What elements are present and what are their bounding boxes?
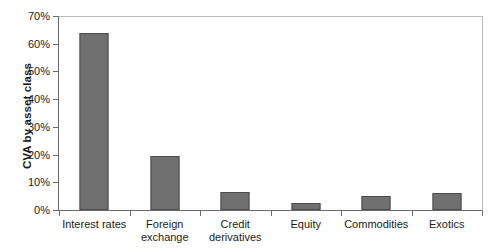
bars-layer xyxy=(59,16,482,210)
y-tick-mark xyxy=(53,127,58,128)
x-tick-mark xyxy=(482,211,483,216)
bar-slot xyxy=(130,16,201,210)
bar-interest-rates[interactable] xyxy=(80,33,109,210)
y-tick-label: 10% xyxy=(8,177,50,188)
bar-credit-derivatives[interactable] xyxy=(221,192,250,210)
y-tick-label: 70% xyxy=(8,11,50,22)
y-tick-mark xyxy=(53,155,58,156)
x-tick-mark xyxy=(59,211,60,216)
y-tick-mark xyxy=(53,71,58,72)
y-tick-label: 30% xyxy=(8,121,50,132)
y-tick-label: 50% xyxy=(8,66,50,77)
x-tick-mark xyxy=(341,211,342,216)
bar-chart: CVA by asset class 70%60%50%40%30%20%10%… xyxy=(0,0,493,250)
y-tick-label: 0% xyxy=(8,205,50,216)
y-tick-mark xyxy=(53,99,58,100)
y-tick-label: 40% xyxy=(8,94,50,105)
y-tick-mark xyxy=(53,44,58,45)
y-tick-mark xyxy=(53,182,58,183)
bar-slot xyxy=(271,16,342,210)
x-axis-label-line: Exotics xyxy=(402,218,492,231)
x-axis-label-line: derivatives xyxy=(190,231,280,244)
bar-commodities[interactable] xyxy=(362,196,391,210)
y-tick-label: 20% xyxy=(8,149,50,160)
x-axis-label-exotics: Exotics xyxy=(402,218,492,231)
bar-foreign-exchange[interactable] xyxy=(150,156,179,210)
y-tick-mark xyxy=(53,16,58,17)
x-tick-mark xyxy=(130,211,131,216)
bar-slot xyxy=(200,16,271,210)
bar-slot xyxy=(341,16,412,210)
x-tick-mark xyxy=(200,211,201,216)
x-tick-mark xyxy=(271,211,272,216)
y-tick-label: 60% xyxy=(8,38,50,49)
x-tick-mark xyxy=(412,211,413,216)
bar-exotics[interactable] xyxy=(432,193,461,210)
bar-slot xyxy=(412,16,483,210)
bar-equity[interactable] xyxy=(291,203,320,210)
bar-slot xyxy=(59,16,130,210)
y-tick-mark xyxy=(53,210,58,211)
